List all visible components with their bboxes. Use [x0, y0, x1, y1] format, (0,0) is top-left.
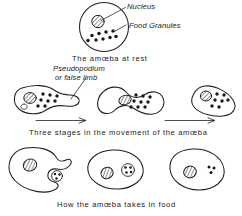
- nucleus-move-1: [24, 93, 36, 104]
- food-particle-feed-1: [52, 171, 63, 182]
- label-nucleus: Nucleus: [127, 2, 155, 11]
- caption-how-amoeba-takes-in-food: How the amœba takes in food: [57, 200, 176, 209]
- food-granules-feed-3: [208, 166, 216, 175]
- label-pseudopodium-line-1: Pseudopodium: [53, 64, 105, 73]
- amoeba-cell-move-1: [14, 86, 79, 114]
- leader-line-food-granules: [115, 25, 127, 32]
- label-food-granules: Food Granules: [129, 21, 181, 30]
- food-granules-move-1: [36, 92, 58, 107]
- amoeba-figure-drawing: [0, 0, 242, 216]
- caption-amoeba-at-rest: The amœba at rest: [72, 54, 148, 63]
- nucleus-feed-1: [22, 157, 39, 173]
- amoeba-figure: Nucleus Food Granules The amœba at rest …: [0, 0, 242, 216]
- amoeba-cell-feed-2: [88, 150, 143, 189]
- amoeba-cell-move-3: [192, 86, 235, 116]
- nucleus-feed-2: [99, 165, 115, 180]
- amoeba-cell-feed-3: [170, 149, 224, 190]
- amoeba-cell-move-2: [98, 87, 164, 114]
- nucleus-feed-3: [182, 164, 198, 179]
- movement-arrow-1: [36, 118, 86, 123]
- label-pseudopodium-line-2: or false limb: [55, 73, 97, 82]
- vacuole-move-1: [21, 104, 27, 109]
- leader-line-nucleus: [101, 8, 126, 21]
- nucleus-rest: [92, 15, 104, 27]
- food-granules-rest: [86, 29, 118, 42]
- caption-three-stages-movement: Three stages in the movement of the amœb…: [29, 128, 208, 137]
- food-granules-move-2: [129, 93, 151, 108]
- food-vacuole-feed-2: [122, 164, 135, 177]
- food-granules-move-3: [210, 92, 229, 108]
- amoeba-cell-rest: [80, 3, 129, 52]
- amoeba-cell-feed-1: [9, 147, 71, 192]
- movement-arrow-2: [165, 118, 215, 123]
- nucleus-move-3: [200, 91, 211, 101]
